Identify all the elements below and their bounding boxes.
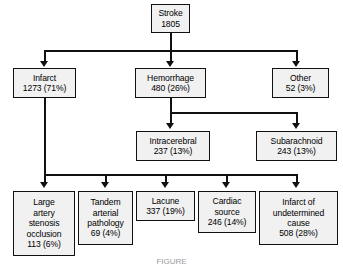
node-undetermined-line1: Infarct of [282, 197, 314, 207]
connector-hemorrhage-stem [170, 98, 172, 113]
node-infarct-value: 1273 (71%) [23, 83, 66, 93]
node-infarct-of-undetermined-cause[interactable]: Infarct of undetermined cause 508 (28%) [259, 191, 338, 245]
node-cardiac-source[interactable]: Cardiac source 246 (14%) [198, 191, 256, 233]
node-lacune-label: Lacune [152, 196, 180, 206]
node-infarct-label: Infarct [33, 73, 56, 83]
node-stroke-label: Stroke [158, 8, 182, 18]
connector-infarct-stem [44, 98, 46, 175]
node-hemorrhage-value: 480 (26%) [151, 83, 190, 93]
connector-stroke-stem [170, 33, 172, 51]
node-subarachnoid-label: Subarachnoid [271, 136, 323, 146]
node-stroke[interactable]: Stroke 1805 [151, 4, 190, 33]
arrowhead-undetermined [292, 182, 300, 188]
arrowhead-infarct [40, 61, 48, 67]
arrowhead-large-artery [40, 182, 48, 188]
node-large-artery-stenosis-occlusion[interactable]: Large artery stenosis occlusion 113 (6%) [13, 191, 75, 256]
node-undetermined-line2: undetermined [273, 208, 324, 218]
figure-caption: FIGURE [0, 257, 343, 265]
arrowhead-tandem [101, 182, 109, 188]
node-subarachnoid[interactable]: Subarachnoid 243 (13%) [256, 131, 337, 161]
node-undetermined-value: 508 (28%) [279, 228, 318, 238]
node-large-artery-line2: artery [33, 208, 54, 218]
node-tandem-arterial-pathology[interactable]: Tandem arterial pathology 69 (4%) [78, 191, 133, 245]
node-other[interactable]: Other 52 (3%) [272, 68, 329, 98]
node-other-label: Other [290, 73, 311, 83]
arrowhead-lacune [161, 182, 169, 188]
node-tandem-line2: arterial [93, 208, 118, 218]
node-subarachnoid-value: 243 (13%) [277, 146, 316, 156]
arrowhead-intracerebral [166, 123, 174, 129]
stroke-flowchart: Stroke 1805 Infarct 1273 (71%) Hemorrhag… [0, 0, 343, 265]
node-other-value: 52 (3%) [286, 83, 315, 93]
node-intracerebral[interactable]: Intracerebral 237 (13%) [136, 131, 210, 161]
node-stroke-value: 1805 [161, 19, 180, 29]
connector-infarct-bus [44, 174, 297, 176]
node-hemorrhage-label: Hemorrhage [147, 73, 194, 83]
arrowhead-other [292, 61, 300, 67]
node-cardiac-line1: Cardiac [213, 196, 242, 206]
node-tandem-line3: pathology [87, 218, 123, 228]
node-cardiac-line2: source [214, 207, 239, 217]
node-large-artery-line1: Large [33, 197, 54, 207]
node-infarct[interactable]: Infarct 1273 (71%) [13, 68, 76, 98]
node-intracerebral-value: 237 (13%) [154, 146, 193, 156]
node-tandem-value: 69 (4%) [91, 228, 120, 238]
node-large-artery-value: 113 (6%) [27, 239, 60, 249]
node-large-artery-line3: stenosis [29, 218, 60, 228]
node-intracerebral-label: Intracerebral [150, 136, 197, 146]
node-lacune-value: 337 (19%) [146, 206, 185, 216]
arrowhead-subarachnoid [292, 123, 300, 129]
node-lacune[interactable]: Lacune 337 (19%) [136, 191, 195, 221]
node-hemorrhage[interactable]: Hemorrhage 480 (26%) [135, 68, 206, 98]
arrowhead-hemorrhage [166, 61, 174, 67]
arrowhead-cardiac [222, 182, 230, 188]
node-large-artery-line4: occlusion [27, 229, 62, 239]
connector-hemorrhage-bus [170, 112, 297, 114]
node-cardiac-value: 246 (14%) [208, 217, 247, 227]
node-tandem-line1: Tandem [91, 197, 121, 207]
node-undetermined-line3: cause [287, 218, 309, 228]
